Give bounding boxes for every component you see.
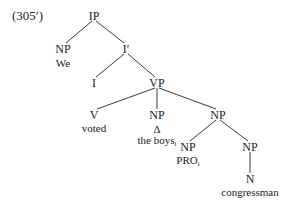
node-np-complement: NP (210, 109, 225, 121)
edge-ip-np-subj (66, 21, 92, 43)
node-np-noun: NP (242, 141, 257, 153)
node-np-object: NP (149, 109, 164, 121)
node-np-subject: NP (55, 43, 70, 55)
node-v: V (90, 109, 99, 121)
node-n: N (246, 173, 255, 185)
tree-edges (0, 0, 287, 203)
edge-np-np-noun (220, 120, 248, 141)
word-voted: voted (82, 123, 106, 134)
the-boys-text: the boys (138, 134, 175, 146)
edge-ibar-i (96, 54, 124, 77)
word-the-boys: the boysi (138, 135, 177, 148)
edge-ibar-vp (128, 54, 155, 77)
word-pro: PROi (176, 155, 199, 168)
node-vp: VP (149, 77, 164, 89)
edge-vp-v (97, 88, 155, 109)
node-i: I (92, 77, 96, 89)
node-i-bar: I′ (123, 43, 130, 55)
edge-np-np-pro (190, 120, 216, 141)
node-ip: IP (89, 10, 100, 22)
index-subscript: i (198, 160, 200, 168)
word-we: We (56, 58, 70, 69)
pro-text: PRO (176, 154, 197, 166)
edge-vp-np-compl (159, 88, 216, 109)
edge-ip-ibar (96, 21, 124, 43)
index-subscript: i (175, 140, 177, 148)
word-congressman: congressman (221, 187, 278, 198)
node-np-pro: NP (180, 141, 195, 153)
